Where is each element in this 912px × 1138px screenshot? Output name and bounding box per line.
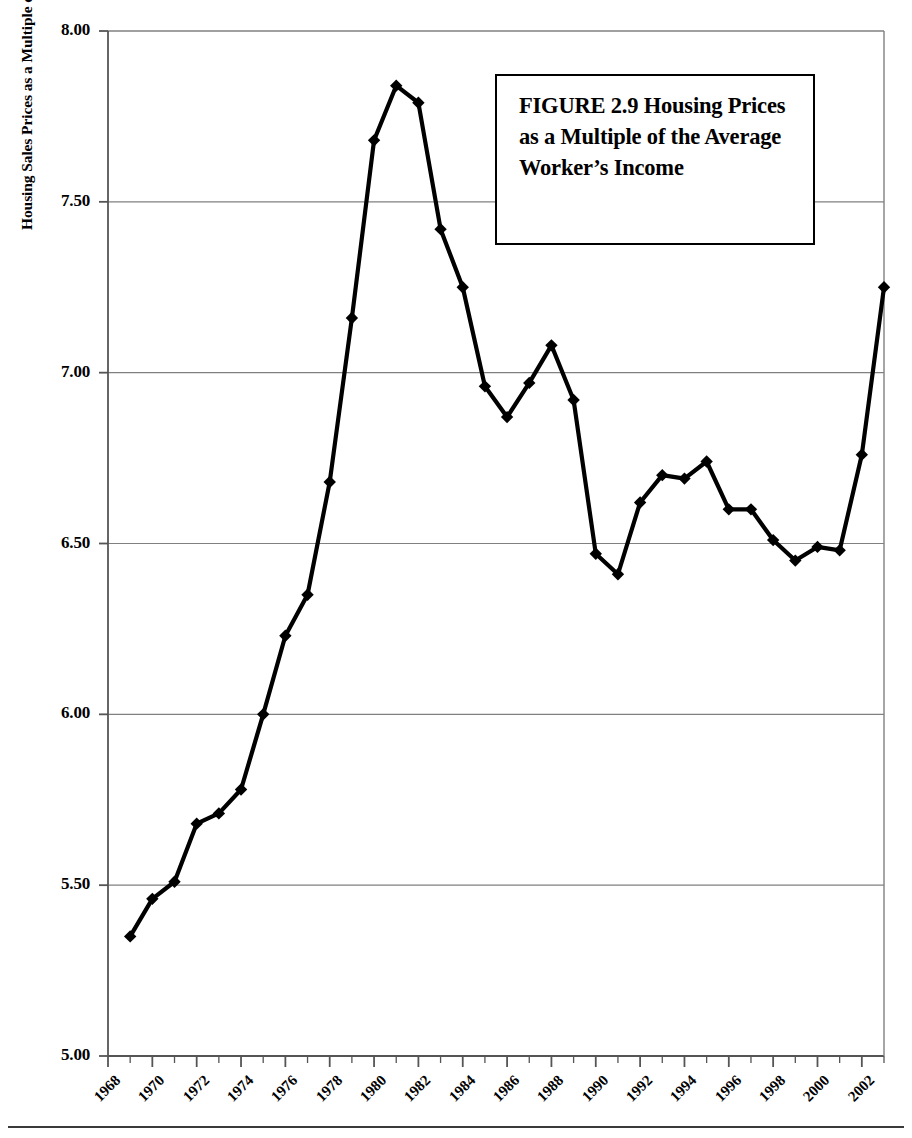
y-axis-ticks bbox=[99, 31, 108, 1056]
figure-title-box: FIGURE 2.9 Housing Prices as a Multiple … bbox=[495, 74, 815, 245]
figure-title: FIGURE 2.9 Housing Prices as a Multiple … bbox=[519, 90, 803, 183]
bottom-divider bbox=[8, 1126, 904, 1128]
figure-container: Housing Sales Prices as a Multiple of Me… bbox=[0, 0, 912, 1138]
x-axis-ticks bbox=[108, 1056, 884, 1067]
